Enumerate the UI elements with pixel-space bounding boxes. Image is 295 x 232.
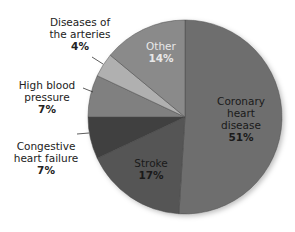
leader-line-chf [77, 133, 89, 134]
label-other: Other14% [141, 40, 181, 64]
leader-line-hbp [83, 88, 93, 92]
label-hbp: High blood pressure 7% [12, 79, 82, 115]
leader-line-arteries [92, 57, 103, 64]
label-coronary: Coronary heart disease 51% [206, 95, 276, 143]
label-chf: Congestive heart failure 7% [6, 140, 86, 176]
label-stroke: Stroke17% [126, 157, 176, 181]
label-arteries: Diseases of the arteries 4% [40, 16, 120, 52]
